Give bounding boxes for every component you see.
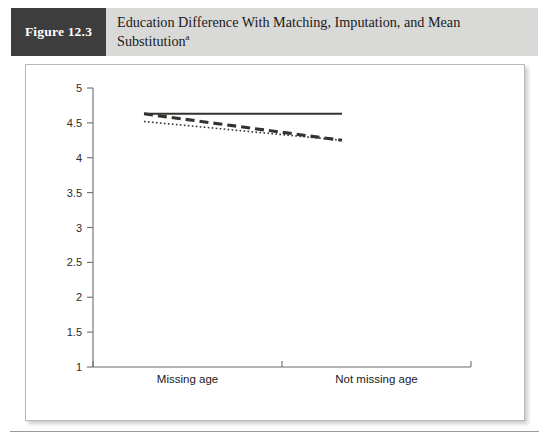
figure-title-footnote-marker: a: [186, 32, 190, 42]
y-axis-tick-label: 3: [76, 222, 82, 234]
figure-title-container: Education Difference With Matching, Impu…: [106, 8, 538, 56]
y-axis-tick-label: 5: [76, 82, 82, 94]
chart-plot-area: 11.522.533.544.55 Missing ageNot missing…: [26, 65, 526, 422]
figure-title: Education Difference With Matching, Impu…: [117, 13, 526, 51]
figure-header: Figure 12.3 Education Difference With Ma…: [11, 8, 538, 56]
figure-number-badge: Figure 12.3: [11, 8, 106, 56]
x-axis-category-label: Missing age: [157, 373, 218, 385]
figure-title-main: Education Difference With Matching, Impu…: [117, 14, 460, 49]
y-axis-tick-label: 1.5: [67, 326, 82, 338]
footer-divider: [10, 431, 539, 432]
x-axis-category-label: Not missing age: [335, 373, 417, 385]
y-axis-tick-label: 3.5: [67, 187, 82, 199]
line-chart: 11.522.533.544.55 Missing ageNot missing…: [26, 65, 526, 422]
y-axis-tick-label: 2: [76, 291, 82, 303]
y-axis-tick-label: 1: [76, 361, 82, 373]
y-axis-tick-label: 4: [76, 152, 82, 164]
series-line-imputed: [144, 114, 342, 141]
x-axis-category-labels: Missing ageNot missing age: [157, 373, 418, 385]
data-series-group: [144, 114, 342, 141]
figure-panel: 11.522.533.544.55 Missing ageNot missing…: [25, 64, 525, 421]
y-axis-tick-label: 2.5: [67, 256, 82, 268]
x-axis: [93, 361, 471, 367]
y-axis-tick-label: 4.5: [67, 117, 82, 129]
y-axis-ticks: 11.522.533.544.55: [67, 82, 93, 373]
figure-number-label: Figure 12.3: [25, 24, 92, 40]
